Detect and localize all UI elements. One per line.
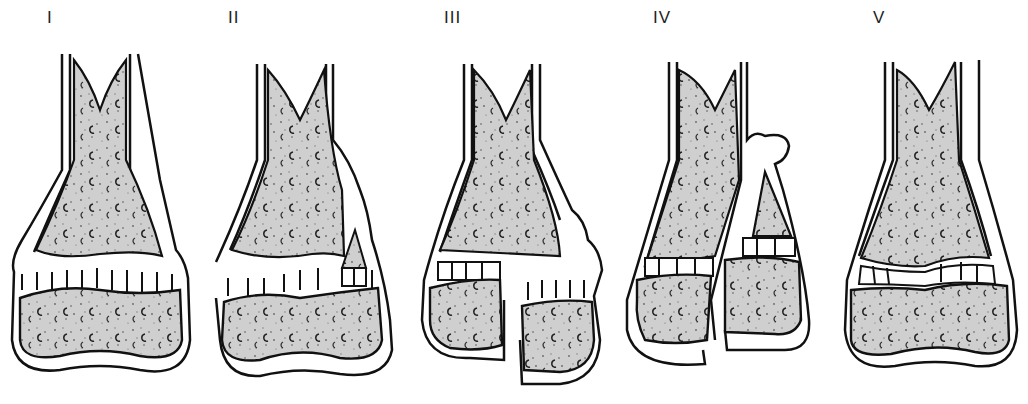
bone-diagram-type-iv [615, 40, 825, 404]
bone-diagram-type-ii [200, 40, 410, 404]
panel-label-ii: II [228, 8, 239, 28]
bone-diagram-type-v [825, 40, 1028, 404]
panel-label-v: V [873, 8, 885, 28]
bone-diagram-type-iii [410, 40, 620, 404]
panel-label-i: I [47, 8, 53, 28]
bone-diagram-type-i [0, 40, 210, 404]
panel-label-iii: III [444, 8, 461, 28]
panel-label-iv: IV [653, 8, 671, 28]
